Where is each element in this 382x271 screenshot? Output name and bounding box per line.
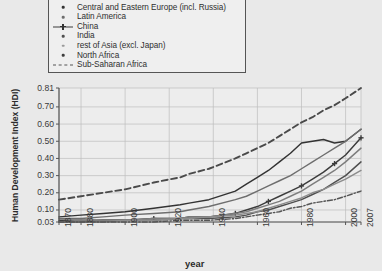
y-axis-tick-label: 0.50 <box>22 136 54 146</box>
dash-dot-line-icon <box>52 60 74 70</box>
legend-label: India <box>77 31 95 41</box>
dot-marker-icon <box>52 3 74 13</box>
x-axis-tick-label: 1920 <box>173 208 183 227</box>
x-axis-title: year <box>185 258 204 269</box>
legend-label: rest of Asia (excl. Japan) <box>77 41 165 51</box>
legend-label: Latin America <box>77 12 126 22</box>
legend-label: Sub-Saharan Africa <box>77 60 147 70</box>
y-axis-tick-label: 0.81 <box>22 83 54 93</box>
y-axis-tick-label: 0.70 <box>22 101 54 111</box>
y-axis-tick-label: 0.30 <box>22 170 54 180</box>
hdi-line-chart-figure: Human Development Index (HDI) year OECD … <box>0 0 382 271</box>
dot-marker-icon <box>52 12 74 22</box>
x-axis-tick-label: 2007 <box>365 208 375 227</box>
dot-marker-icon <box>52 41 74 51</box>
legend-item-rest-of-asia[interactable]: rest of Asia (excl. Japan) <box>52 41 242 51</box>
legend-item-india[interactable]: India <box>52 31 242 41</box>
x-axis-tick-label: 1880 <box>85 208 95 227</box>
legend-label: China <box>77 22 98 32</box>
x-axis-tick-label: 1900 <box>129 208 139 227</box>
dot-marker-icon <box>52 51 74 61</box>
y-axis-tick-label: 0.40 <box>22 153 54 163</box>
x-axis-tick-label: 1960 <box>261 208 271 227</box>
x-axis-tick-label: 1940 <box>217 208 227 227</box>
legend-item-latin-america[interactable]: Latin America <box>52 12 242 22</box>
x-axis-tick-label: 1870 <box>63 208 73 227</box>
plus-marker-line-icon <box>52 22 74 32</box>
y-axis-tick-label: 0.03 <box>22 217 54 227</box>
legend-item-north-africa[interactable]: North Africa <box>52 51 242 61</box>
y-axis-tick-label: 0.20 <box>22 187 54 197</box>
y-axis-tick-label: 0.60 <box>22 119 54 129</box>
legend-item-central-and-eastern-europe[interactable]: Central and Eastern Europe (incl. Russia… <box>52 3 242 13</box>
legend-item-sub-saharan-africa[interactable]: Sub-Saharan Africa <box>52 60 242 70</box>
chart-legend: OECD Central and Eastern Europe (incl. R… <box>48 0 246 73</box>
legend-label: North Africa <box>77 51 119 61</box>
dot-marker-icon <box>52 31 74 41</box>
y-axis-title: Human Development Index (HDI) <box>10 89 20 222</box>
x-axis-tick-label: 1980 <box>305 208 315 227</box>
legend-item-china[interactable]: China <box>52 22 242 32</box>
plot-background <box>59 88 361 222</box>
y-axis-tick-label: 0.10 <box>22 204 54 214</box>
x-axis-tick-label: 2000 <box>349 208 359 227</box>
legend-label: Central and Eastern Europe (incl. Russia… <box>77 3 226 13</box>
